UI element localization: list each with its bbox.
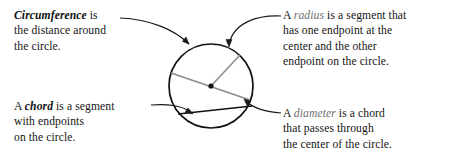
callout-diameter-line3: the center of the circle. [283,137,453,152]
callout-circumference: Circumference is the distance around the… [14,8,154,54]
callout-radius-line2: has one endpoint at the [283,23,453,38]
callout-chord: A chord is a segment with endpoints on t… [14,99,164,145]
leader-arrow-circumference [183,37,190,44]
callout-diameter-line1-rest: is a chord [336,107,385,120]
callout-diameter-lead: A [283,107,294,120]
callout-radius-line4: endpoint on the circle. [283,54,453,69]
callout-diameter-line1: A diameter is a chord [283,106,453,121]
leader-line-diameter [247,102,281,113]
callout-diameter-line2: that passes through [283,121,453,136]
callout-radius-line1-rest: is a segment that [324,9,406,22]
radius-segment [211,55,240,86]
callout-diameter: A diameter is a chord that passes throug… [283,106,453,152]
term-chord: chord [25,100,53,113]
callout-radius-lead: A [283,9,294,22]
term-radius: radius [294,9,324,22]
term-diameter: diameter [294,107,336,120]
callout-chord-line1-rest: is a segment [53,100,115,113]
callout-radius-line3: center and the other [283,39,453,54]
leader-line-radius [229,16,281,44]
callout-chord-line2: with endpoints [14,114,164,129]
callout-radius-line1: A radius is a segment that [283,8,453,23]
callout-circumference-line1: Circumference is [14,8,154,23]
callout-chord-lead: A [14,100,25,113]
term-circumference: Circumference [14,9,87,22]
leader-arrow-radius [226,40,232,48]
callout-chord-line3: on the circle. [14,130,164,145]
callout-circumference-line2: the distance around [14,23,154,38]
center-point [208,83,213,88]
callout-radius: A radius is a segment that has one endpo… [283,8,453,70]
callout-circumference-line1-rest: is [87,9,98,22]
callout-circumference-line3: the circle. [14,39,154,54]
figure-canvas: Circumference is the distance around the… [0,0,456,167]
callout-chord-line1: A chord is a segment [14,99,164,114]
